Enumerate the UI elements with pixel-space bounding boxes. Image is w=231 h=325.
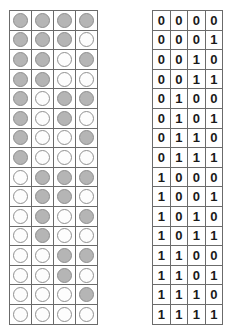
circle-cell bbox=[32, 226, 54, 246]
circle-cell bbox=[32, 304, 54, 324]
binary-digit-cell: 1 bbox=[188, 69, 206, 89]
empty-circle-icon bbox=[57, 72, 72, 87]
filled-circle-icon bbox=[35, 228, 50, 243]
circle-cell bbox=[54, 148, 76, 168]
binary-digit-cell: 1 bbox=[153, 187, 171, 207]
filled-circle-icon bbox=[79, 52, 94, 67]
circle-cell bbox=[10, 30, 32, 50]
empty-circle-icon bbox=[79, 307, 94, 322]
binary-digit-cell: 0 bbox=[188, 265, 206, 285]
circle-cell bbox=[10, 128, 32, 148]
binary-digit-cell: 0 bbox=[188, 187, 206, 207]
circle-cell bbox=[10, 206, 32, 226]
binary-digit-cell: 1 bbox=[205, 226, 223, 246]
table-row bbox=[10, 246, 98, 266]
filled-circle-icon bbox=[35, 13, 50, 28]
circle-cell bbox=[54, 11, 76, 31]
circle-cell bbox=[32, 50, 54, 70]
binary-digit-cell: 1 bbox=[170, 285, 188, 305]
binary-digit-cell: 0 bbox=[205, 285, 223, 305]
circle-cell bbox=[54, 167, 76, 187]
binary-digit-cell: 0 bbox=[170, 167, 188, 187]
empty-circle-icon bbox=[13, 268, 28, 283]
filled-circle-icon bbox=[13, 91, 28, 106]
table-row bbox=[10, 89, 98, 109]
table-row bbox=[10, 148, 98, 168]
table-row bbox=[10, 304, 98, 324]
table-row bbox=[10, 265, 98, 285]
circle-cell bbox=[54, 206, 76, 226]
table-row: 0111 bbox=[153, 148, 223, 168]
binary-digit-cell: 0 bbox=[205, 11, 223, 31]
circle-cell bbox=[76, 69, 98, 89]
empty-circle-icon bbox=[57, 228, 72, 243]
binary-digit-cell: 1 bbox=[205, 108, 223, 128]
binary-digit-cell: 0 bbox=[188, 11, 206, 31]
empty-circle-icon bbox=[35, 268, 50, 283]
empty-circle-icon bbox=[57, 52, 72, 67]
circle-cell bbox=[76, 30, 98, 50]
empty-circle-icon bbox=[35, 130, 50, 145]
filled-circle-icon bbox=[35, 170, 50, 185]
binary-digit-cell: 1 bbox=[170, 304, 188, 324]
table-row: 0010 bbox=[153, 50, 223, 70]
circle-cell bbox=[32, 148, 54, 168]
binary-digit-cell: 0 bbox=[153, 108, 171, 128]
table-row: 1100 bbox=[153, 246, 223, 266]
filled-circle-icon bbox=[79, 13, 94, 28]
circle-cell bbox=[54, 89, 76, 109]
binary-digit-cell: 1 bbox=[153, 285, 171, 305]
circle-cell bbox=[10, 265, 32, 285]
circle-cell bbox=[76, 304, 98, 324]
binary-digit-cell: 0 bbox=[153, 11, 171, 31]
empty-circle-icon bbox=[57, 209, 72, 224]
empty-circle-icon bbox=[13, 209, 28, 224]
circle-cell bbox=[76, 148, 98, 168]
table-row: 0100 bbox=[153, 89, 223, 109]
circle-cell bbox=[54, 265, 76, 285]
empty-circle-icon bbox=[57, 130, 72, 145]
table-row: 1111 bbox=[153, 304, 223, 324]
filled-circle-icon bbox=[35, 32, 50, 47]
empty-circle-icon bbox=[79, 189, 94, 204]
filled-circle-icon bbox=[35, 52, 50, 67]
filled-circle-icon bbox=[57, 13, 72, 28]
filled-circle-icon bbox=[35, 72, 50, 87]
binary-digit-cell: 1 bbox=[205, 187, 223, 207]
binary-digit-cell: 1 bbox=[153, 246, 171, 266]
circle-cell bbox=[54, 69, 76, 89]
binary-digit-cell: 0 bbox=[170, 226, 188, 246]
binary-digit-cell: 0 bbox=[205, 246, 223, 266]
circle-cell bbox=[32, 265, 54, 285]
binary-digit-cell: 1 bbox=[205, 148, 223, 168]
binary-digit-cell: 1 bbox=[153, 167, 171, 187]
table-row: 1101 bbox=[153, 265, 223, 285]
binary-digit-cell: 0 bbox=[188, 89, 206, 109]
binary-digit-cell: 1 bbox=[188, 285, 206, 305]
circle-cell bbox=[32, 11, 54, 31]
circle-cell bbox=[54, 304, 76, 324]
empty-circle-icon bbox=[13, 248, 28, 263]
empty-circle-icon bbox=[79, 32, 94, 47]
filled-circle-icon bbox=[13, 13, 28, 28]
filled-circle-icon bbox=[79, 209, 94, 224]
table-row bbox=[10, 206, 98, 226]
empty-circle-icon bbox=[79, 268, 94, 283]
circle-cell bbox=[76, 167, 98, 187]
binary-digit-cell: 0 bbox=[170, 206, 188, 226]
filled-circle-icon bbox=[57, 268, 72, 283]
circle-cell bbox=[76, 187, 98, 207]
filled-circle-icon bbox=[13, 150, 28, 165]
table-row bbox=[10, 187, 98, 207]
circle-cell bbox=[54, 30, 76, 50]
filled-circle-icon bbox=[79, 287, 94, 302]
filled-circle-icon bbox=[13, 52, 28, 67]
binary-digit-cell: 1 bbox=[170, 89, 188, 109]
empty-circle-icon bbox=[79, 150, 94, 165]
circle-cell bbox=[10, 285, 32, 305]
circle-cell bbox=[10, 89, 32, 109]
table-row: 1011 bbox=[153, 226, 223, 246]
empty-circle-icon bbox=[57, 307, 72, 322]
binary-digit-cell: 1 bbox=[188, 50, 206, 70]
circle-cell bbox=[32, 246, 54, 266]
